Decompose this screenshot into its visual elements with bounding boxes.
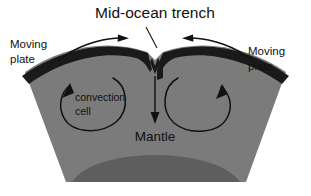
diagram-canvas: Mid-ocean trench Moving plate Moving pla… [0,0,311,196]
right-plate-arrowhead [182,35,193,42]
left-plate-arrowhead [118,35,129,42]
page-title: Mid-ocean trench [95,4,215,21]
label-moving-plate-right-line1: Moving [248,45,285,57]
label-convection-cell-line2: cell [75,105,91,117]
title-leader-line [146,27,157,48]
label-moving-plate-left-line1: Moving [10,38,47,50]
plate-tectonics-svg: Mid-ocean trench Moving plate Moving pla… [0,0,311,196]
label-mantle: Mantle [135,129,176,144]
label-convection-cell-line1: convection [75,91,125,103]
label-moving-plate-right-line2: plate [248,60,273,72]
label-moving-plate-left-line2: plate [10,53,35,65]
